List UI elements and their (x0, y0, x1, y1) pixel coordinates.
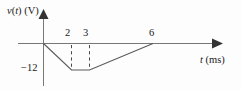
x-tick-label-3: 3 (83, 28, 88, 39)
y-axis-label: v(t) (V) (7, 6, 39, 17)
waveform-trace (44, 44, 154, 71)
y-axis-label-unit: (V) (24, 5, 39, 16)
y-tick-label-minus-12: −12 (21, 63, 37, 74)
t-axis-arrowhead (212, 39, 223, 49)
x-axis-label-unit: (ms) (206, 54, 225, 65)
x-tick-label-2: 2 (65, 28, 70, 39)
v-axis-arrowhead (39, 9, 49, 19)
waveform-figure: v(t) (V) t (ms) 2 3 6 −12 (0, 0, 241, 90)
x-axis-label-var: t (200, 54, 203, 65)
x-tick-label-6: 6 (149, 28, 154, 39)
x-axis-label: t (ms) (200, 55, 225, 66)
y-axis-label-arg: (t) (12, 5, 22, 16)
